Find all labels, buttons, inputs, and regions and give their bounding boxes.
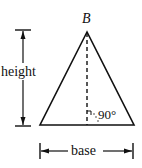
right-angle-marker bbox=[87, 111, 99, 122]
height-label: height bbox=[1, 64, 36, 79]
base-label: base bbox=[71, 143, 96, 158]
angle-label: 90° bbox=[98, 107, 116, 122]
apex-label: B bbox=[82, 11, 91, 26]
triangle-diagram: 90° B height base bbox=[0, 0, 142, 168]
